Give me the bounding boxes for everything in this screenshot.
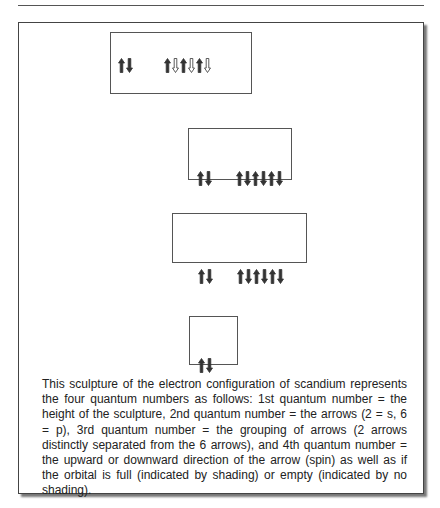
arrow-up-filled-icon xyxy=(198,358,205,373)
arrow-up-filled-icon xyxy=(196,58,203,73)
arrow-down-empty-icon xyxy=(188,58,195,73)
s-arrow-group-level-3 xyxy=(198,268,214,284)
arrow-down-filled-icon xyxy=(276,171,283,186)
arrow-up-filled-icon xyxy=(236,171,243,186)
sculpture-level-3-box xyxy=(172,213,307,263)
arrow-down-filled-icon xyxy=(205,171,212,186)
arrow-down-filled-icon xyxy=(206,358,213,373)
arrow-down-empty-icon xyxy=(204,58,211,73)
arrow-down-filled-icon xyxy=(245,269,252,284)
arrow-up-filled-icon xyxy=(252,171,259,186)
p-arrow-group-level-3 xyxy=(237,268,285,284)
s-arrow-group-level-4 xyxy=(198,357,214,373)
arrow-up-filled-icon xyxy=(268,171,275,186)
arrow-down-filled-icon xyxy=(277,269,284,284)
arrow-down-filled-icon xyxy=(206,269,213,284)
arrow-down-filled-icon xyxy=(260,171,267,186)
arrow-up-filled-icon xyxy=(197,171,204,186)
arrow-down-filled-icon xyxy=(261,269,268,284)
arrow-up-filled-icon xyxy=(164,58,171,73)
arrow-down-empty-icon xyxy=(172,58,179,73)
arrow-up-filled-icon xyxy=(253,269,260,284)
arrow-up-filled-icon xyxy=(198,269,205,284)
figure-caption: This sculpture of the electron configura… xyxy=(42,377,407,499)
arrow-up-filled-icon xyxy=(180,58,187,73)
p-arrow-group-level-1 xyxy=(164,57,212,73)
arrow-up-filled-icon xyxy=(118,58,125,73)
s-arrow-group-level-2 xyxy=(197,170,213,186)
arrow-down-filled-icon xyxy=(244,171,251,186)
s-arrow-group-level-1 xyxy=(118,57,134,73)
arrow-down-filled-icon xyxy=(126,58,133,73)
header-rule xyxy=(18,5,424,6)
arrow-up-filled-icon xyxy=(237,269,244,284)
arrow-up-filled-icon xyxy=(269,269,276,284)
p-arrow-group-level-2 xyxy=(236,170,284,186)
